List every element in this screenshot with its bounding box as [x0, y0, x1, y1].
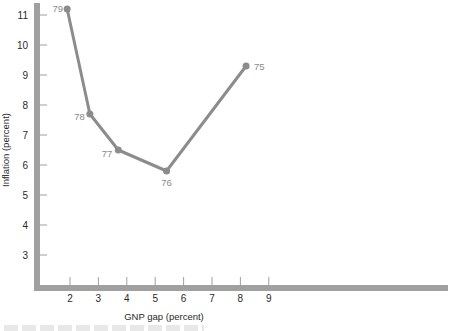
- data-point: [163, 168, 170, 175]
- data-point-label: 75: [254, 61, 265, 72]
- y-tick-label: 6: [22, 160, 28, 171]
- x-tick-label: 4: [124, 293, 130, 304]
- x-tick-label: 3: [96, 293, 102, 304]
- axes: [34, 3, 448, 291]
- series-line: [67, 9, 246, 171]
- y-tick-label: 4: [22, 220, 28, 231]
- x-tick-label: 9: [266, 293, 272, 304]
- y-tick-label: 8: [22, 100, 28, 111]
- y-tick-label: 10: [17, 40, 29, 51]
- y-tick-label: 3: [22, 250, 28, 261]
- x-tick-label: 5: [152, 293, 158, 304]
- data-point: [115, 147, 122, 154]
- chart-canvas: 3456789101123456789 7978777675 GNP gap (…: [0, 0, 456, 331]
- x-tick-label: 7: [209, 293, 215, 304]
- figure-caption-cutoff: [4, 325, 204, 331]
- data-point: [64, 6, 71, 13]
- x-tick-label: 8: [238, 293, 244, 304]
- y-tick-label: 5: [22, 190, 28, 201]
- y-tick-label: 9: [22, 70, 28, 81]
- data-point-label: 77: [102, 148, 113, 159]
- y-tick-label: 11: [18, 10, 29, 21]
- y-axis-line: [34, 3, 40, 291]
- data-point: [243, 63, 250, 70]
- axis-ticks: 3456789101123456789: [17, 10, 272, 304]
- y-axis-title: Inflation (percent): [0, 113, 11, 187]
- x-axis-line: [34, 285, 448, 291]
- data-point-label: 76: [161, 177, 172, 188]
- x-axis-title: GNP gap (percent): [124, 311, 204, 322]
- data-point-label: 79: [53, 3, 64, 14]
- y-tick-label: 7: [22, 130, 28, 141]
- data-point-label: 78: [74, 111, 85, 122]
- data-series: 7978777675: [53, 3, 265, 188]
- data-point: [86, 111, 93, 118]
- x-tick-label: 2: [67, 293, 73, 304]
- x-tick-label: 6: [181, 293, 187, 304]
